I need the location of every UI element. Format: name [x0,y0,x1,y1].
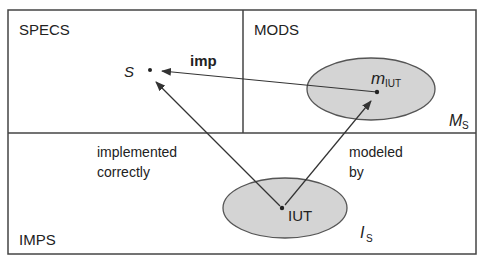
point-m-iut [375,90,379,94]
edge-label-modeled-line2: by [349,164,364,180]
set-label-is-main: I [360,224,365,241]
set-label-is-sub: S [366,233,373,244]
region-label-mods: MODS [254,21,299,38]
set-ellipse-ms [307,58,435,120]
region-label-specs: SPECS [19,21,70,38]
diagram-canvas: SPECS MODS IMPS S m IUT IUT M S I S imp … [0,0,485,264]
edge-label-imp: imp [190,52,217,69]
node-label-iut: IUT [288,207,312,224]
point-s [148,68,152,72]
set-label-is: I S [360,224,373,244]
set-label-ms-sub: S [462,120,469,131]
node-label-m-iut-sub: IUT [385,78,401,89]
set-label-ms: M S [449,112,469,131]
edge-label-modeled-line1: modeled [349,144,403,160]
node-label-s: S [124,63,134,80]
set-ellipse-is [223,178,347,238]
node-label-m-iut-main: m [371,69,385,88]
region-label-imps: IMPS [19,231,56,248]
set-label-ms-main: M [449,112,463,129]
edge-label-implemented-line2: correctly [97,164,150,180]
point-iut [280,206,284,210]
edge-label-implemented-line1: implemented [97,144,177,160]
